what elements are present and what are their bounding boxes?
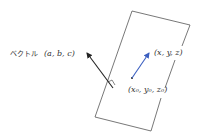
- plane-diagram: ベクトル (a, b, c) (x, y, z) (x₀, y₀, z₀): [0, 0, 200, 138]
- normal-vector-arrow: [87, 53, 113, 88]
- normal-vector-label: ベクトル (a, b, c): [10, 42, 75, 59]
- in-plane-vector-arrow: [132, 53, 149, 78]
- normal-vector-label-jp: ベクトル: [10, 50, 38, 58]
- plane: [95, 11, 190, 131]
- start-point-label: (x₀, y₀, z₀): [128, 85, 167, 94]
- normal-vector-label-math: (a, b, c): [44, 49, 75, 58]
- end-point-label: (x, y, z): [154, 48, 183, 57]
